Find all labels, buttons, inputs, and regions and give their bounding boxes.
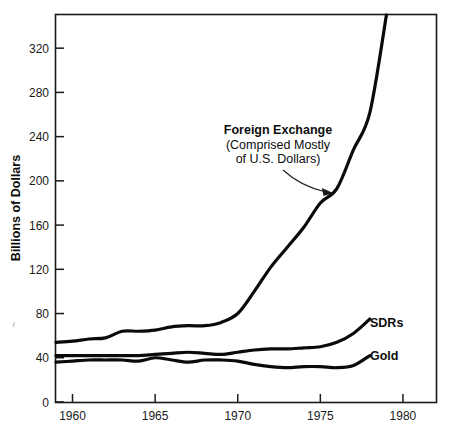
x-tick-label: 1975 bbox=[307, 409, 334, 423]
series-label-gold: Gold bbox=[370, 349, 398, 363]
y-tick-label: 240 bbox=[29, 130, 49, 144]
y-tick-label: 280 bbox=[29, 86, 49, 100]
y-tick-label: 200 bbox=[29, 174, 49, 188]
y-tick-label: 120 bbox=[29, 263, 49, 277]
y-tick-label: 40 bbox=[36, 351, 50, 365]
y-axis-title: Billions of Dollars bbox=[9, 155, 23, 261]
annotation-line-2: (Comprised Mostly bbox=[226, 138, 331, 152]
y-tick-label: 0 bbox=[42, 396, 49, 410]
x-tick-label: 1980 bbox=[390, 409, 417, 423]
annotation-title: Foreign Exchange bbox=[224, 123, 332, 137]
y-tick-label: 160 bbox=[29, 219, 49, 233]
reserves-line-chart: 04080120160200240280320 1960196519701975… bbox=[0, 0, 450, 427]
y-tick-label: 320 bbox=[29, 42, 49, 56]
x-tick-label: 1965 bbox=[142, 409, 169, 423]
series-label-sdrs: SDRs bbox=[370, 316, 403, 330]
chart-page: 04080120160200240280320 1960196519701975… bbox=[0, 0, 450, 427]
x-tick-label: 1960 bbox=[59, 409, 86, 423]
y-tick-label: 80 bbox=[36, 307, 50, 321]
annotation-line-3: of U.S. Dollars) bbox=[236, 152, 321, 166]
x-tick-label: 1970 bbox=[224, 409, 251, 423]
